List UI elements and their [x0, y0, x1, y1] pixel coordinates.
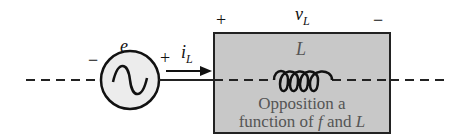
caption-line-1: Opposition a — [214, 95, 390, 112]
current-label: iL — [181, 42, 193, 67]
voltage-plus: + — [216, 10, 226, 31]
arrow-head-icon — [200, 66, 212, 76]
source-minus: − — [88, 50, 98, 71]
caption-line-2: function of f and L — [214, 113, 390, 130]
source-plus: + — [160, 48, 170, 69]
inductor-symbol: L — [296, 39, 306, 60]
source-label: e — [120, 36, 128, 57]
voltage-minus: − — [373, 10, 383, 31]
voltage-label: vL — [295, 4, 310, 29]
